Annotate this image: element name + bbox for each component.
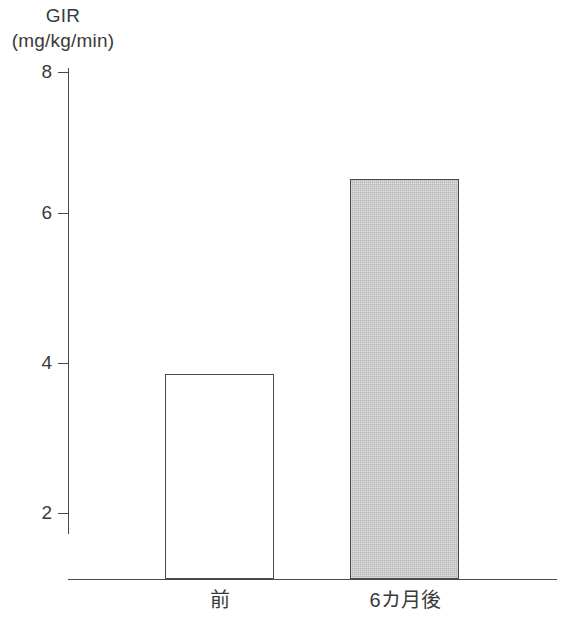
y-tick-mark-4 [58, 363, 69, 364]
x-axis-line [68, 579, 557, 580]
y-tick-label-4: 4 [6, 353, 52, 372]
y-tick-mark-6 [58, 213, 69, 214]
bar-before [165, 374, 274, 579]
gir-bar-chart: GIR (mg/kg/min) 8 6 4 2 前 6カ月後 [0, 0, 568, 629]
y-tick-label-8: 8 [6, 62, 52, 81]
y-axis-line [68, 68, 69, 534]
bar-after-6-months [350, 179, 459, 579]
x-category-label-after: 6カ月後 [330, 588, 480, 612]
y-tick-mark-8 [58, 72, 69, 73]
y-tick-label-2: 2 [6, 503, 52, 522]
x-category-label-before: 前 [145, 588, 295, 612]
plot-area: 8 6 4 2 前 6カ月後 [0, 0, 568, 629]
y-tick-mark-2 [58, 513, 69, 514]
y-tick-label-6: 6 [6, 203, 52, 222]
